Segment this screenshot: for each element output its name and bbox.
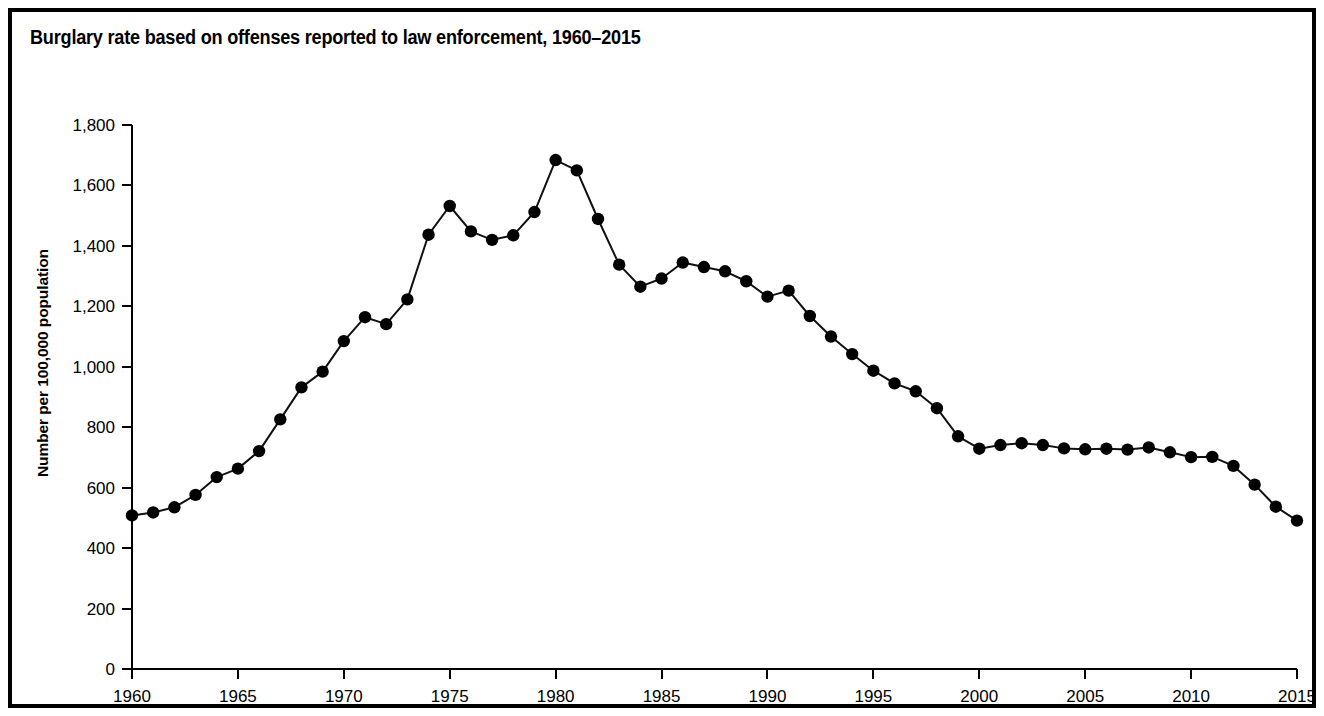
data-point	[677, 256, 689, 268]
data-point	[740, 275, 752, 287]
x-tick-label: 1970	[325, 687, 363, 704]
x-tick-label: 1985	[643, 687, 681, 704]
x-tick-label: 1990	[749, 687, 787, 704]
data-point	[1100, 442, 1112, 454]
y-tick-label: 1,000	[72, 358, 115, 377]
data-point	[1079, 443, 1091, 455]
data-point	[1121, 443, 1133, 455]
data-point	[507, 229, 519, 241]
data-point	[295, 381, 307, 393]
x-tick-label: 1995	[854, 687, 892, 704]
data-point	[867, 365, 879, 377]
data-point	[1164, 446, 1176, 458]
y-tick-label: 1,800	[72, 116, 115, 135]
data-point	[1248, 478, 1260, 490]
burglary-rate-line	[132, 160, 1297, 521]
data-point	[952, 430, 964, 442]
y-tick-label: 1,400	[72, 237, 115, 256]
data-point	[444, 200, 456, 212]
x-axis-ticks: 1960196519701975198019851990199520002005…	[113, 669, 1312, 704]
data-point	[571, 164, 583, 176]
data-point	[189, 489, 201, 501]
x-tick-label: 2000	[960, 687, 998, 704]
y-tick-label: 800	[87, 418, 115, 437]
data-point	[316, 365, 328, 377]
data-point	[1206, 451, 1218, 463]
figure-frame: Burglary rate based on offenses reported…	[8, 8, 1316, 708]
data-point	[846, 348, 858, 360]
y-tick-label: 1,200	[72, 297, 115, 316]
data-point	[465, 225, 477, 237]
data-point	[655, 272, 667, 284]
data-point	[910, 385, 922, 397]
x-tick-label: 1980	[537, 687, 575, 704]
burglary-rate-markers	[126, 154, 1303, 527]
data-point	[211, 471, 223, 483]
data-point	[719, 265, 731, 277]
data-point	[549, 154, 561, 166]
data-point	[825, 330, 837, 342]
data-point	[359, 311, 371, 323]
y-tick-label: 400	[87, 539, 115, 558]
data-point	[698, 261, 710, 273]
data-point	[232, 462, 244, 474]
data-point	[1227, 460, 1239, 472]
data-point	[613, 258, 625, 270]
data-point	[888, 377, 900, 389]
data-point	[1037, 439, 1049, 451]
y-axis-ticks: 02004006008001,0001,2001,4001,6001,800	[72, 116, 132, 679]
data-point	[804, 310, 816, 322]
data-point	[1270, 501, 1282, 513]
data-point	[147, 506, 159, 518]
data-point	[994, 439, 1006, 451]
data-point	[1058, 442, 1070, 454]
data-point	[126, 509, 138, 521]
data-point	[486, 234, 498, 246]
x-tick-label: 2010	[1172, 687, 1210, 704]
line-chart: 02004006008001,0001,2001,4001,6001,800 1…	[12, 12, 1312, 704]
data-point	[338, 335, 350, 347]
data-point	[592, 213, 604, 225]
data-point	[1185, 451, 1197, 463]
data-point	[761, 290, 773, 302]
y-tick-label: 1,600	[72, 176, 115, 195]
x-tick-label: 1975	[431, 687, 469, 704]
data-point	[401, 293, 413, 305]
y-tick-label: 200	[87, 600, 115, 619]
data-point	[1143, 441, 1155, 453]
x-tick-label: 1965	[219, 687, 257, 704]
data-point	[1291, 514, 1303, 526]
data-point	[380, 318, 392, 330]
data-point	[931, 402, 943, 414]
data-point	[634, 280, 646, 292]
y-tick-label: 600	[87, 479, 115, 498]
data-point	[422, 229, 434, 241]
plot-area: 02004006008001,0001,2001,4001,6001,800 1…	[12, 12, 1312, 704]
x-tick-label: 2015	[1278, 687, 1312, 704]
data-point	[168, 501, 180, 513]
data-point	[782, 284, 794, 296]
x-tick-label: 1960	[113, 687, 151, 704]
x-tick-label: 2005	[1066, 687, 1104, 704]
data-point	[1015, 437, 1027, 449]
data-point	[274, 413, 286, 425]
data-point	[973, 442, 985, 454]
data-point	[253, 445, 265, 457]
data-point	[528, 206, 540, 218]
y-tick-label: 0	[106, 660, 115, 679]
